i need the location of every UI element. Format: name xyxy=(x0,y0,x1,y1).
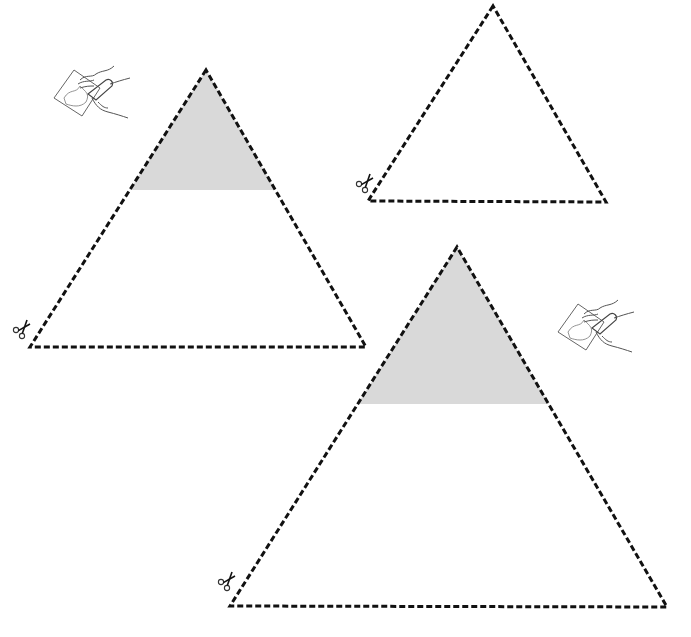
glue-hand-icon xyxy=(54,66,130,118)
glue-hand-icon xyxy=(558,300,634,352)
triangle-2-cut-line xyxy=(368,6,606,202)
triangle-3-shaded-region xyxy=(358,247,549,404)
triangle-2 xyxy=(356,6,606,202)
scissors-icon xyxy=(13,320,30,339)
triangle-1-shaded-region xyxy=(130,70,275,190)
worksheet-canvas xyxy=(0,0,691,637)
scissors-icon xyxy=(356,174,373,193)
triangle-1 xyxy=(13,70,366,347)
triangle-3 xyxy=(218,247,667,607)
scissors-icon xyxy=(218,572,235,591)
